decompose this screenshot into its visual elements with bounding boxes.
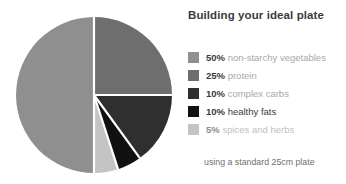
legend-item-label: healthy fats <box>228 106 277 117</box>
legend-item-protein: 25% protein <box>188 66 346 84</box>
legend-swatch-icon <box>188 70 199 81</box>
legend-item-non-starchy-vegetables: 50% non-starchy vegetables <box>188 48 346 66</box>
legend-item-healthy-fats: 10% healthy fats <box>188 102 346 120</box>
legend-item-text: 50% non-starchy vegetables <box>206 52 326 63</box>
pie-chart-graphic <box>14 15 174 175</box>
chart-legend: 50% non-starchy vegetables 25% protein 1… <box>188 48 346 138</box>
legend-item-label: non-starchy vegetables <box>228 52 326 63</box>
pie-svg <box>14 15 174 175</box>
legend-item-text: 10% complex carbs <box>206 88 289 99</box>
legend-item-text: 10% healthy fats <box>206 106 276 117</box>
legend-swatch-icon <box>188 106 199 117</box>
legend-item-text: 5% spices and herbs <box>206 124 294 135</box>
legend-item-percent: 25% <box>206 70 225 81</box>
pie-chart-figure: Building your ideal plate 50% non-starch… <box>0 0 346 184</box>
chart-footnote: using a standard 25cm plate <box>204 157 315 167</box>
chart-info-panel: Building your ideal plate 50% non-starch… <box>186 0 346 184</box>
pie-slice-non-starchy-vegetables <box>16 17 94 173</box>
legend-item-label: complex carbs <box>228 88 289 99</box>
legend-item-percent: 50% <box>206 52 225 63</box>
chart-title: Building your ideal plate <box>188 9 324 21</box>
legend-item-percent: 10% <box>206 106 225 117</box>
legend-item-spices-and-herbs: 5% spices and herbs <box>188 120 346 138</box>
legend-item-label: protein <box>228 70 257 81</box>
legend-swatch-icon <box>188 52 199 63</box>
legend-item-text: 25% protein <box>206 70 257 81</box>
legend-swatch-icon <box>188 124 199 135</box>
legend-item-percent: 10% <box>206 88 225 99</box>
pie-slice-protein <box>94 17 172 95</box>
legend-item-complex-carbs: 10% complex carbs <box>188 84 346 102</box>
legend-item-percent: 5% <box>206 124 220 135</box>
legend-item-label: spices and herbs <box>222 124 294 135</box>
legend-swatch-icon <box>188 88 199 99</box>
